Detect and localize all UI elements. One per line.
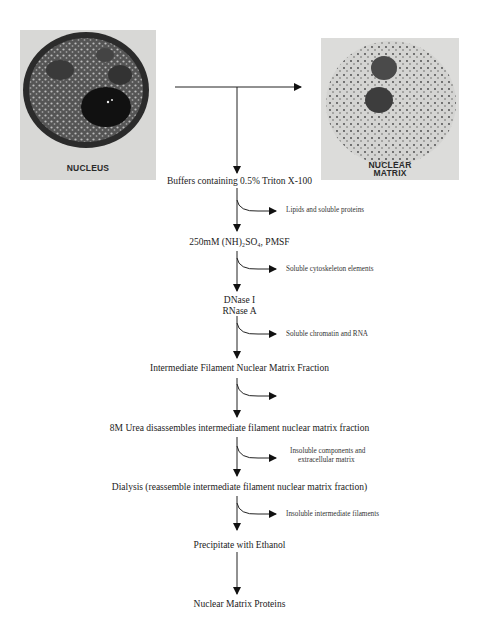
removed-lipids: Lipids and soluble proteins [286,206,364,215]
step-nuclear-matrix-proteins: Nuclear Matrix Proteins [0,599,479,610]
step-ammonium-sulfate: 250mM (NH)₂SO₄, PMSF [0,237,479,248]
removed-insoluble-if: Insoluble intermediate filaments [286,510,379,519]
removed-insoluble-components: Insoluble components and [290,447,365,456]
step-if-nuclear-matrix-fraction: Intermediate Filament Nuclear Matrix Fra… [0,363,479,374]
removed-chromatin-rna: Soluble chromatin and RNA [286,330,368,339]
removed-cytoskeleton: Soluble cytoskeleton elements [286,265,373,274]
step-rnase: RNase A [0,306,479,317]
step-ethanol: Precipitate with Ethanol [0,540,479,551]
step-triton-buffer: Buffers containing 0.5% Triton X-100 [0,176,479,187]
step-dnase: DNase I [0,295,479,306]
step-urea: 8M Urea disassembles intermediate filame… [0,423,479,434]
step-dialysis: Dialysis (reassemble intermediate filame… [0,482,479,493]
removed-extracellular-matrix: extracellular matrix [298,456,354,465]
